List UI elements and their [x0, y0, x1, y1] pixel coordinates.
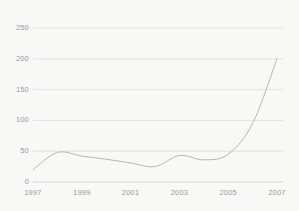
chart-plot-area: [0, 0, 299, 211]
x-axis-tick-label: 1997: [19, 189, 47, 197]
y-axis-tick-label: 0: [25, 178, 29, 186]
x-axis-tick-label: 2001: [117, 189, 145, 197]
x-axis-tick-label: 2005: [214, 189, 242, 197]
y-axis-tick-label: 100: [16, 116, 29, 124]
gridline-group: [33, 28, 283, 182]
y-axis-tick-label: 250: [16, 24, 29, 32]
line-chart: 050100150200250 199719992001200320052007: [0, 0, 299, 211]
x-axis-tick-label: 2003: [165, 189, 193, 197]
x-axis-tick-label: 2007: [263, 189, 291, 197]
y-axis-tick-label: 50: [20, 147, 29, 155]
data-series-group: [33, 59, 277, 170]
y-axis-tick-label: 200: [16, 55, 29, 63]
y-axis-tick-label: 150: [16, 86, 29, 94]
x-axis-tick-label: 1999: [68, 189, 96, 197]
data-line: [33, 59, 277, 170]
